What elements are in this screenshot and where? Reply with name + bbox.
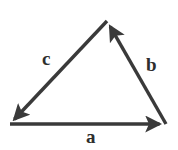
vector-triangle-figure: a b c [0, 0, 178, 150]
vector-label-b: b [146, 55, 157, 74]
vector-label-c: c [42, 49, 50, 68]
vector-c-arrow [14, 21, 107, 119]
vector-b-arrow [110, 27, 166, 124]
vector-label-a: a [86, 127, 96, 146]
